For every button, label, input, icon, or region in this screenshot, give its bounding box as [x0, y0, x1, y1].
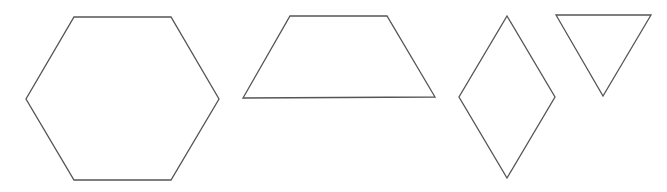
trapezoid-shape	[243, 16, 435, 98]
triangle-shape	[556, 15, 651, 96]
shapes-canvas	[0, 0, 667, 192]
rhombus-shape	[459, 16, 555, 178]
hexagon-shape	[26, 17, 219, 180]
